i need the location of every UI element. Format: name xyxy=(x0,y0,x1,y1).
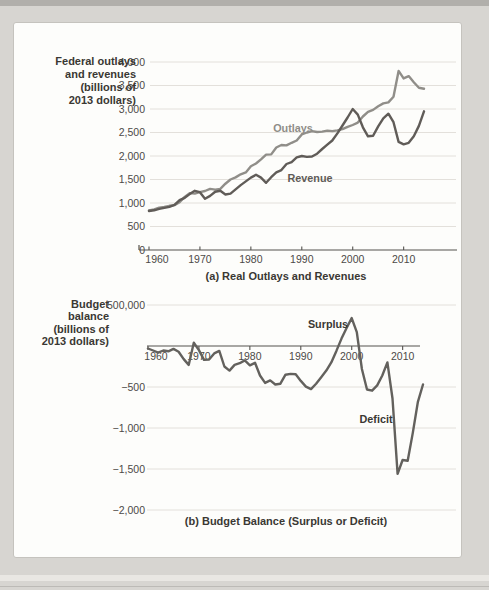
panel-a-plot: 4,0003,5003,0002,5002,0001,5001,00050001… xyxy=(119,56,457,266)
x-tick-label: 1960 xyxy=(145,253,169,265)
x-tick-label: 1980 xyxy=(238,350,262,362)
panel-b-y-axis-title-line-1: Budget xyxy=(71,298,109,310)
deficit-annotation: Deficit xyxy=(360,413,393,425)
x-tick-label: 2010 xyxy=(391,350,415,362)
federal-budget-figure: 4,0003,5003,0002,5002,0001,5001,00050001… xyxy=(14,23,461,557)
y-tick-label: 1,000 xyxy=(119,197,145,209)
y-tick-label: 2,000 xyxy=(119,150,145,162)
y-tick-label: −1,500 xyxy=(113,463,146,475)
revenue-series-label: Revenue xyxy=(287,172,332,184)
x-tick-label: 1990 xyxy=(290,253,314,265)
panel-a-y-axis-title-line-1: Federal outlays xyxy=(55,55,136,67)
y-tick-label: 1,500 xyxy=(119,173,145,185)
x-tick-label: 1970 xyxy=(188,253,212,265)
y-tick-label: −1,000 xyxy=(113,422,146,434)
panel-b-y-axis-title-line-4: 2013 dollars) xyxy=(42,335,110,347)
panel-a-caption: (a) Real Outlays and Revenues xyxy=(206,270,367,282)
outlays-series-label: Outlays xyxy=(273,122,313,134)
outlays-line xyxy=(149,71,424,211)
figure-card: 4,0003,5003,0002,5002,0001,5001,00050001… xyxy=(13,22,462,558)
y-tick-label: 500,000 xyxy=(107,299,145,311)
page-bottom-line xyxy=(0,586,489,587)
panel-b-plot: 500,000−500−1,000−1,500−2,00019601970198… xyxy=(107,299,456,516)
panel-a-y-axis-title-line-4: 2013 dollars) xyxy=(69,94,137,106)
x-tick-label: 2010 xyxy=(392,253,416,265)
panel-b-y-axis-title-line-2: balance xyxy=(68,310,109,322)
page-bottom-band xyxy=(0,575,489,581)
x-tick-label: 1980 xyxy=(239,253,263,265)
page-top-strip xyxy=(0,0,489,6)
y-tick-label: −500 xyxy=(121,381,145,393)
y-tick-label: 2,500 xyxy=(119,126,145,138)
panel-a-y-axis-title-line-2: and revenues xyxy=(65,68,136,80)
y-tick-label: 500 xyxy=(127,220,145,232)
panel-b-y-axis-title-line-3: (billions of xyxy=(53,323,109,335)
x-tick-label: 1990 xyxy=(289,350,313,362)
surplus-annotation: Surplus xyxy=(308,318,348,330)
panel-b-caption: (b) Budget Balance (Surplus or Deficit) xyxy=(185,515,388,527)
budget-balance-line xyxy=(148,318,423,474)
x-tick-label: 2000 xyxy=(341,253,365,265)
panel-a-y-axis-title-line-3: (billions of xyxy=(80,81,136,93)
y-tick-label: −2,000 xyxy=(113,504,146,516)
